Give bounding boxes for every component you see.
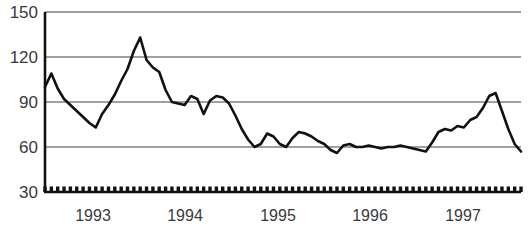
y-axis-tick-label: 120	[0, 49, 38, 66]
x-axis-tick-label: 1995	[248, 208, 308, 224]
y-axis-tick-label: 60	[0, 139, 38, 156]
x-axis-tick-label: 1997	[433, 208, 493, 224]
y-axis-tick-label: 150	[0, 4, 38, 21]
chart-plot-area	[0, 0, 532, 236]
x-axis-tick-label: 1993	[63, 208, 123, 224]
x-axis-tick-label: 1994	[155, 208, 215, 224]
y-axis-tick-label: 30	[0, 184, 38, 201]
data-series-line	[45, 38, 521, 154]
y-axis-tick-label: 90	[0, 94, 38, 111]
x-axis-tick-label: 1996	[340, 208, 400, 224]
line-chart-figure: 150120906030 19931994199519961997	[0, 0, 532, 236]
gridlines-group	[45, 12, 521, 147]
